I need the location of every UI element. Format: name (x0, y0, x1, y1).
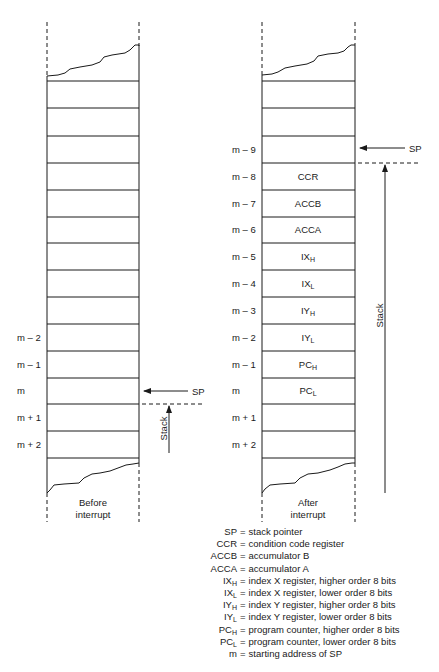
legend-description: accumulator B (249, 550, 310, 562)
legend-description: program counter, lower order 8 bits (249, 636, 396, 648)
address-label: m – 7 (232, 198, 256, 209)
legend-item: PCH=program counter, higher order 8 bits (150, 624, 400, 636)
address-label: m – 2 (232, 332, 256, 343)
legend-key: IYL (150, 611, 237, 623)
after-torn-bottom-edge (262, 463, 355, 493)
address-label: m – 8 (232, 171, 256, 182)
after-torn-top-edge (262, 45, 355, 75)
legend-item: m=starting address of SP (150, 648, 400, 660)
legend-equals: = (237, 526, 249, 538)
register-name: IX (302, 278, 311, 289)
stack-interrupt-diagram: m – 2m – 1mm + 1m + 2 SP Stack Before in… (0, 0, 439, 672)
before-caption: Before interrupt (47, 497, 139, 521)
register-subscript: L (311, 337, 315, 344)
before-sp-label: SP (192, 386, 205, 397)
after-caption-line2: interrupt (262, 509, 354, 521)
address-label: m + 2 (17, 439, 41, 450)
before-memory-column (47, 22, 139, 522)
stack-cell-pcl: PCL (262, 385, 354, 396)
legend-item: CCR=condition code register (150, 538, 400, 550)
legend-equals: = (237, 538, 249, 550)
before-torn-top-edge (47, 45, 139, 76)
address-label: m – 3 (232, 305, 256, 316)
register-name: PC (299, 385, 312, 396)
legend-description: index Y register, lower order 8 bits (249, 611, 392, 623)
address-label: m (232, 385, 240, 396)
register-subscript: L (313, 390, 317, 397)
legend-item: IYH=index Y register, higher order 8 bit… (150, 599, 400, 611)
stack-cell-iyh: IYH (262, 305, 354, 316)
register-name: IY (301, 305, 310, 316)
legend-key: ACCB (150, 550, 237, 562)
legend-description: stack pointer (249, 526, 303, 538)
address-label: m + 1 (17, 412, 41, 423)
legend-description: starting address of SP (249, 648, 342, 660)
legend-equals: = (237, 636, 249, 648)
legend-description: program counter, higher order 8 bits (249, 624, 400, 636)
address-label: m – 1 (17, 359, 41, 370)
address-label: m – 4 (232, 278, 256, 289)
before-torn-bottom-edge (47, 463, 139, 493)
legend-description: condition code register (249, 538, 345, 550)
register-name: IY (302, 332, 311, 343)
address-label: m (17, 385, 25, 396)
address-label: m + 2 (232, 439, 256, 450)
after-sp-label: SP (409, 143, 422, 154)
legend-item: PCL=program counter, lower order 8 bits (150, 636, 400, 648)
legend: SP=stack pointerCCR=condition code regis… (150, 526, 400, 660)
legend-key: PCL (150, 636, 237, 648)
address-label: m – 5 (232, 251, 256, 262)
stack-cell-accb: ACCB (262, 198, 354, 209)
stack-cell-ccr: CCR (262, 171, 354, 182)
legend-key: PCH (150, 624, 237, 636)
legend-item: ACCA=accumulator A (150, 563, 400, 575)
address-label: m – 6 (232, 224, 256, 235)
legend-item: IYL=index Y register, lower order 8 bits (150, 611, 400, 623)
legend-equals: = (237, 648, 249, 660)
legend-key: IXH (150, 575, 237, 587)
register-subscript: L (311, 283, 315, 290)
legend-equals: = (237, 611, 249, 623)
legend-item: ACCB=accumulator B (150, 550, 400, 562)
stack-cell-pch: PCH (262, 359, 354, 370)
after-caption-line1: After (262, 497, 354, 509)
legend-item: SP=stack pointer (150, 526, 400, 538)
legend-description: index X register, lower order 8 bits (249, 587, 393, 599)
before-stack-label: Stack (158, 417, 169, 441)
legend-key: SP (150, 526, 237, 538)
address-label: m – 1 (232, 359, 256, 370)
legend-equals: = (237, 624, 249, 636)
stack-cell-iyl: IYL (262, 332, 354, 343)
legend-item: IXL=index X register, lower order 8 bits (150, 587, 400, 599)
legend-equals: = (237, 587, 249, 599)
legend-key: IYH (150, 599, 237, 611)
legend-equals: = (237, 563, 249, 575)
address-label: m + 1 (232, 412, 256, 423)
register-name: CCR (298, 171, 319, 182)
register-name: ACCB (295, 198, 321, 209)
before-caption-line2: interrupt (47, 509, 139, 521)
register-subscript: H (310, 256, 315, 263)
register-subscript: H (312, 364, 317, 371)
before-caption-line1: Before (47, 497, 139, 509)
register-name: ACCA (295, 224, 321, 235)
legend-key: ACCA (150, 563, 237, 575)
legend-description: index Y register, higher order 8 bits (249, 599, 396, 611)
legend-key: m (150, 648, 237, 660)
legend-key: CCR (150, 538, 237, 550)
legend-item: IXH=index X register, higher order 8 bit… (150, 575, 400, 587)
address-label: m – 2 (17, 332, 41, 343)
after-memory-column (262, 22, 355, 522)
legend-description: index X register, higher order 8 bits (249, 575, 396, 587)
legend-description: accumulator A (249, 563, 309, 575)
after-caption: After interrupt (262, 497, 354, 521)
stack-cell-acca: ACCA (262, 224, 354, 235)
address-label: m – 9 (232, 144, 256, 155)
legend-equals: = (237, 575, 249, 587)
after-stack-label: Stack (374, 304, 385, 328)
register-name: IX (301, 251, 310, 262)
register-subscript: H (310, 310, 315, 317)
legend-key: IXL (150, 587, 237, 599)
stack-cell-ixl: IXL (262, 278, 354, 289)
legend-equals: = (237, 599, 249, 611)
